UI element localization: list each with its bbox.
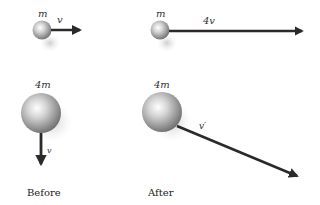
velocity-label-4v: 4v	[202, 15, 215, 26]
small-ball	[151, 21, 170, 40]
caption-before: Before	[27, 187, 61, 198]
before-large-ball-group: 4m v	[21, 79, 72, 164]
caption-after: After	[147, 187, 174, 198]
mass-label-4m: 4m	[153, 79, 170, 90]
large-ball	[142, 92, 182, 132]
mass-label-m: m	[156, 8, 165, 19]
velocity-arrow-diagonal	[177, 126, 297, 176]
before-small-ball-group: m v	[33, 8, 81, 52]
after-small-ball-group: m 4v	[151, 8, 303, 52]
mass-label-4m: 4m	[34, 79, 51, 90]
mass-label-m: m	[38, 8, 47, 19]
velocity-label-v-prime: v′	[199, 121, 206, 131]
large-ball	[21, 93, 61, 133]
after-large-ball-group: 4m v′	[142, 79, 297, 176]
small-ball	[33, 21, 52, 40]
velocity-label-v: v	[47, 146, 52, 155]
velocity-label-v: v	[57, 14, 63, 25]
collision-diagram: m v 4m v Before m 4v 4m v′ After	[0, 0, 320, 205]
